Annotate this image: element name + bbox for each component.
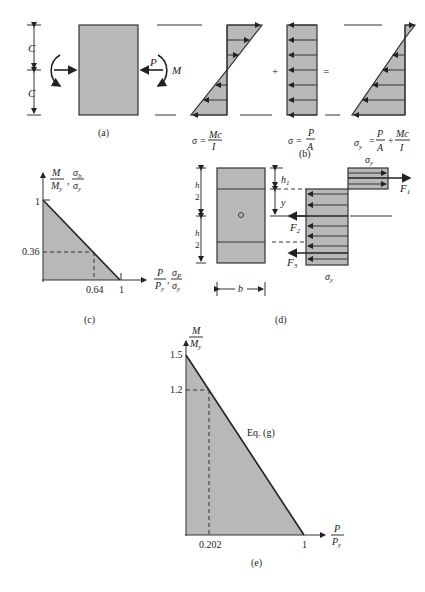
svg-text:Py: Py <box>154 280 165 293</box>
panel-b: σ = Mc I + σ = P A = σy = P <box>155 25 415 160</box>
panel-a: C C P M (a) <box>27 25 182 139</box>
svg-text:F1: F1 <box>399 182 410 196</box>
svg-text:σb: σb <box>73 167 82 180</box>
dim-c-top: C <box>28 42 36 54</box>
svg-text:M: M <box>51 167 61 178</box>
svg-text:P: P <box>156 267 163 278</box>
panel-d-label: (d) <box>275 314 287 326</box>
x-tick-1-e: 1 <box>302 539 307 550</box>
svg-text:Py: Py <box>331 536 342 549</box>
panel-e-label: (e) <box>251 557 262 569</box>
combined-stress-top <box>405 25 415 38</box>
svg-text:h1: h1 <box>281 174 290 187</box>
panel-b-label: (b) <box>299 148 311 160</box>
combined-stress-bottom <box>352 38 405 115</box>
equals-operator: = <box>323 65 329 77</box>
svg-text:A: A <box>376 142 384 153</box>
svg-text:P: P <box>307 127 314 138</box>
svg-text:,: , <box>67 175 70 186</box>
panel-e: 1.5 1.2 0.202 1 Eq. (g) M My P Py (e) <box>170 325 344 569</box>
y-tick-15-e: 1.5 <box>170 349 183 360</box>
x-tick-0202-e: 0.202 <box>199 539 222 550</box>
svg-text:Mc: Mc <box>395 128 409 139</box>
cross-section-d <box>217 168 265 263</box>
label-m: M <box>171 64 182 76</box>
svg-text:P: P <box>333 523 340 534</box>
x-tick-1-c: 1 <box>119 284 124 295</box>
svg-text:2: 2 <box>195 192 200 202</box>
y-tick-036-c: 0.36 <box>22 246 40 257</box>
label-p: P <box>149 56 157 68</box>
svg-text:Mc: Mc <box>208 129 222 140</box>
svg-text:My: My <box>189 338 202 351</box>
x-tick-064-c: 0.64 <box>86 284 104 295</box>
svg-text:σy: σy <box>73 180 82 193</box>
axial-stress-formula: σ = <box>288 135 302 146</box>
bending-stress-formula: σ = <box>192 135 206 146</box>
svg-text:F2: F2 <box>289 221 301 235</box>
svg-text:=: = <box>369 135 375 146</box>
panel-c: 1 0.36 0.64 1 M My , σb σy P Py , σP σy … <box>22 167 182 326</box>
svg-text:σy: σy <box>325 271 334 284</box>
svg-text:σP: σP <box>172 267 182 280</box>
svg-text:I: I <box>211 141 216 152</box>
bending-stress-bottom <box>191 70 227 115</box>
panel-c-label: (c) <box>84 314 95 326</box>
svg-text:σy: σy <box>172 280 181 293</box>
plus-operator: + <box>272 65 278 77</box>
curve-label-eq-g: Eq. (g) <box>247 427 275 439</box>
svg-text:h: h <box>195 228 200 238</box>
y-tick-1-c: 1 <box>35 196 40 207</box>
svg-text:M: M <box>191 325 201 336</box>
svg-text:2: 2 <box>195 240 200 250</box>
svg-text:My: My <box>50 180 63 193</box>
diagram-canvas: C C P M (a) σ = Mc I + <box>0 0 425 592</box>
panel-a-label: (a) <box>98 127 109 139</box>
svg-text:σy: σy <box>365 154 374 167</box>
beam-section <box>79 25 138 115</box>
dim-c-bottom: C <box>28 87 36 99</box>
svg-text:h: h <box>195 180 200 190</box>
svg-text:+: + <box>388 135 394 146</box>
svg-text:I: I <box>399 142 404 153</box>
combined-stress-formula: σy <box>354 137 363 151</box>
svg-text:F3: F3 <box>286 256 298 270</box>
svg-text:b: b <box>238 283 243 294</box>
svg-text:P: P <box>376 128 383 139</box>
bending-stress-top <box>227 25 262 70</box>
y-tick-12-e: 1.2 <box>170 384 183 395</box>
svg-text:,: , <box>167 274 170 285</box>
svg-text:y: y <box>280 197 286 208</box>
panel-d: h 2 h 2 b h1 y <box>195 154 410 326</box>
